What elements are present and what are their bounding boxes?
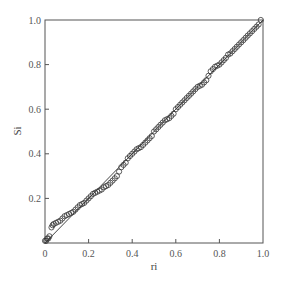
- x-tick-label: 0.4: [126, 248, 139, 259]
- x-axis-label: ri: [151, 260, 158, 272]
- y-tick-label: 0.6: [29, 104, 42, 115]
- scatter-chart: 00.20.40.60.81.0 0.20.40.60.81.0 ri Si: [0, 0, 281, 286]
- x-tick-label: 0.8: [213, 248, 226, 259]
- x-tick-label: 0.6: [170, 248, 183, 259]
- y-tick-label: 1.0: [29, 15, 42, 26]
- x-tick-label: 0: [43, 248, 48, 259]
- y-tick-label: 0.2: [29, 193, 42, 204]
- x-axis-ticks: 00.20.40.60.81.0: [43, 239, 270, 259]
- data-points: [42, 17, 263, 243]
- y-tick-label: 0.8: [29, 59, 42, 70]
- y-axis-label: Si: [11, 126, 23, 135]
- x-tick-label: 1.0: [257, 248, 270, 259]
- y-tick-label: 0.4: [29, 148, 42, 159]
- x-tick-label: 0.2: [82, 248, 95, 259]
- y-axis-ticks: 0.20.40.60.81.0: [29, 15, 50, 204]
